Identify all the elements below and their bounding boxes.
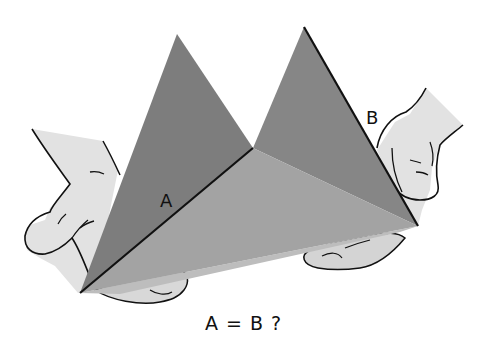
- caption: A = B ?: [0, 312, 487, 334]
- tetrahedron-hands-illustration: A B: [0, 0, 487, 349]
- edge-a-label: A: [160, 190, 173, 211]
- edge-b-label: B: [366, 107, 378, 128]
